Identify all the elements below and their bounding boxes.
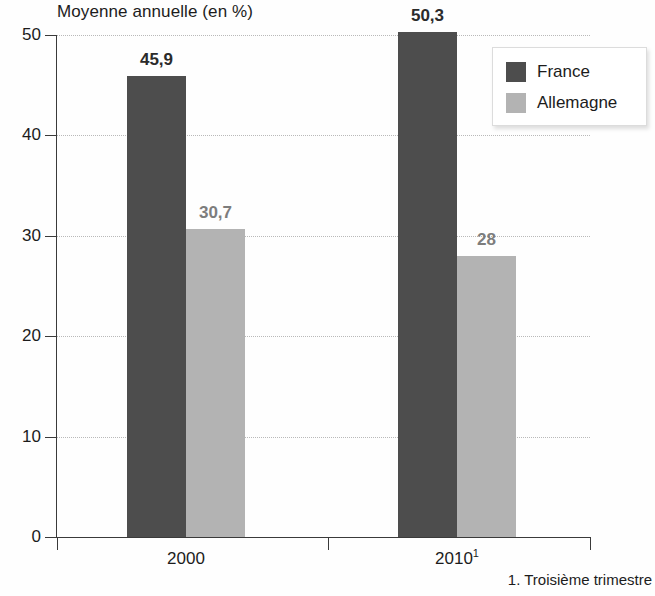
x-tick-label-text: 2000: [167, 549, 205, 568]
y-tick-label-40: 40: [0, 125, 41, 145]
y-tick-mark-40: [45, 135, 56, 136]
legend-swatch-allemagne: [506, 93, 526, 113]
x-axis-line: [57, 537, 590, 538]
bar-value-allemagne-2000: 30,7: [199, 203, 232, 223]
chart-legend: FranceAllemagne: [492, 47, 647, 126]
x-tick-label-footnote-marker: 1: [473, 547, 479, 559]
bar-value-france-2010: 50,3: [411, 6, 444, 26]
bar-value-france-2000: 45,9: [140, 50, 173, 70]
legend-item-france[interactable]: France: [506, 62, 590, 82]
x-axis-tick-2: [590, 537, 591, 550]
y-tick-label-50: 50: [0, 25, 41, 45]
legend-item-allemagne[interactable]: Allemagne: [506, 93, 617, 113]
chart-title: Moyenne annuelle (en %): [57, 2, 253, 22]
y-tick-label-30: 30: [0, 226, 41, 246]
bar-france-2000[interactable]: [127, 76, 186, 537]
y-tick-mark-0: [45, 537, 56, 538]
chart-container: Moyenne annuelle (en %) 01020304050 45,9…: [0, 0, 655, 596]
x-tick-label-2010: 20101: [435, 549, 479, 569]
x-axis-tick-1: [328, 537, 329, 550]
y-tick-mark-10: [45, 437, 56, 438]
y-tick-label-10: 10: [0, 427, 41, 447]
y-tick-label-0: 0: [0, 527, 41, 547]
x-axis-tick-0: [57, 537, 58, 550]
bar-allemagne-2000[interactable]: [186, 229, 245, 537]
legend-swatch-france: [506, 62, 526, 82]
legend-label-france: France: [537, 62, 590, 82]
y-tick-mark-50: [45, 35, 56, 36]
y-tick-mark-20: [45, 336, 56, 337]
footnote: 1. Troisième trimestre: [508, 571, 652, 588]
y-tick-label-20: 20: [0, 326, 41, 346]
x-tick-label-2000: 2000: [167, 549, 205, 569]
bar-france-2010[interactable]: [398, 32, 457, 537]
bar-allemagne-2010[interactable]: [457, 256, 516, 537]
y-tick-mark-30: [45, 236, 56, 237]
x-tick-label-text: 2010: [435, 549, 473, 568]
bar-value-allemagne-2010: 28: [477, 230, 496, 250]
legend-label-allemagne: Allemagne: [537, 93, 617, 113]
